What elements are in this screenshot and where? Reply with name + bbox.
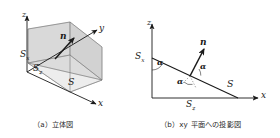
angle-label-alpha-mid: α [177, 77, 183, 85]
helper-horizontal-dashed [182, 76, 190, 84]
normal-label-n-b: n [200, 38, 207, 47]
axis-label-z-b: z [147, 19, 151, 27]
surface-label-s-a: S [68, 77, 75, 87]
surface-label-sz-a: Sz [33, 64, 42, 76]
segment-label-sz-b: Sz [186, 100, 195, 112]
surface-label-sx-a-sub: x [26, 55, 29, 61]
axis-label-z-a: z [22, 11, 26, 19]
segment-label-s-b: S [227, 79, 234, 89]
segment-label-sx-b: Sx [135, 52, 144, 64]
caption-panel-a: （a）立体図 [33, 119, 74, 129]
angle-label-alpha-right: α [200, 62, 206, 70]
axis-label-y-a: y [99, 24, 104, 33]
axis-label-x-a: x [98, 99, 103, 108]
angle-label-alpha-top: α [157, 58, 163, 66]
caption-panel-b: （b）xy 平面への投影図 [160, 119, 241, 129]
panel-a-3d-view [27, 16, 102, 104]
segment-label-sx-b-sub: x [141, 57, 144, 63]
normal-label-n-a: n [60, 32, 67, 41]
segment-label-sz-b-sub: z [192, 105, 195, 111]
angle-arc-mid [184, 82, 193, 85]
surface-label-sz-a-sub: z [39, 69, 42, 75]
surface-label-sx-a: Sx [20, 50, 29, 62]
segment-s-line [152, 58, 238, 98]
axis-label-x-b: x [261, 91, 266, 100]
